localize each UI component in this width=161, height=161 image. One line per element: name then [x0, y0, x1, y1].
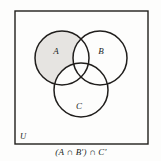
figure-caption: (A ∩ B′) ∩ C′ — [55, 147, 107, 157]
set-label-a: A — [52, 46, 59, 56]
set-label-b: B — [98, 46, 104, 56]
venn-diagram-figure: A B C U (A ∩ B′) ∩ C′ — [0, 0, 161, 161]
universe-label: U — [20, 131, 27, 141]
set-label-c: C — [76, 101, 83, 111]
venn-diagram-canvas: A B C U (A ∩ B′) ∩ C′ — [0, 0, 161, 161]
